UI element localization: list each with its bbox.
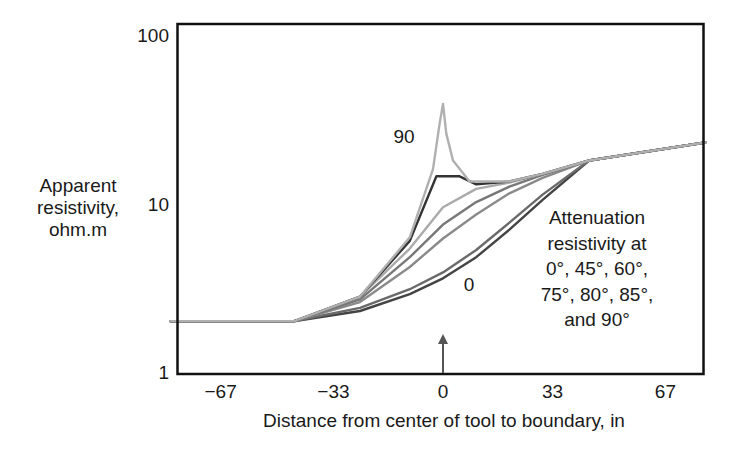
x-axis-label: Distance from center of tool to boundary…	[263, 410, 625, 431]
resistivity-chart: 110100 −67−3303367 Apparentresistivity,o…	[0, 0, 740, 452]
y-axis-label-line: Apparent	[39, 175, 117, 196]
x-tick-labels: −67−3303367	[204, 381, 675, 402]
description-line: 75°, 80°, 85°,	[541, 284, 654, 305]
top-curve-label: 90	[393, 126, 414, 147]
description-line: and 90°	[564, 309, 630, 330]
x-tick-label: −67	[204, 381, 236, 402]
x-tick-label: −33	[317, 381, 349, 402]
description-line: Attenuation	[549, 207, 645, 228]
x-tick-label: 33	[542, 381, 563, 402]
bottom-curve-label: 0	[464, 274, 475, 295]
description-line: 0°, 45°, 60°,	[546, 258, 648, 279]
y-axis-label: Apparentresistivity,ohm.m	[37, 175, 119, 240]
attenuation-description: Attenuationresistivity at0°, 45°, 60°,75…	[541, 207, 654, 330]
y-tick-label: 1	[158, 362, 169, 383]
boundary-arrow-icon	[438, 334, 448, 373]
y-tick-labels: 110100	[137, 25, 169, 383]
y-axis-label-line: ohm.m	[49, 219, 107, 240]
description-line: resistivity at	[547, 233, 647, 254]
y-tick-label: 100	[137, 25, 169, 46]
y-tick-label: 10	[148, 194, 169, 215]
y-axis-label-line: resistivity,	[37, 197, 119, 218]
x-tick-label: 0	[438, 381, 449, 402]
x-tick-label: 67	[655, 381, 676, 402]
